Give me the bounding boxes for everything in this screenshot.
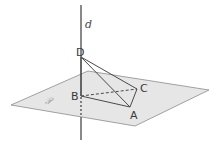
- figure-canvas: d D B C A 𝒫: [0, 0, 217, 146]
- line-label-d: d: [85, 18, 92, 31]
- point-label-a: A: [130, 109, 138, 122]
- plane-p: [11, 71, 209, 126]
- point-label-b: B: [71, 90, 79, 103]
- geometry-figure: d D B C A 𝒫: [0, 0, 217, 146]
- point-label-c: C: [140, 82, 148, 95]
- point-label-d: D: [76, 46, 84, 59]
